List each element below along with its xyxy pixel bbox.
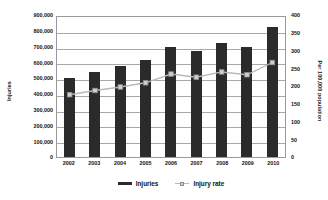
x-axis-tick-2002: 2002	[56, 160, 82, 172]
y-axis-left-tick-label: 600,000	[34, 61, 54, 66]
injury-rate-marker-2005	[143, 81, 148, 86]
y-axis-left-tick-label: 300,000	[34, 108, 54, 113]
line-series-injury-rate	[57, 17, 285, 157]
y-axis-left-title: Injuries	[6, 63, 12, 119]
x-axis-tick-2006: 2006	[158, 160, 184, 172]
x-axis-tick-2004: 2004	[107, 160, 133, 172]
x-axis-tick-2010: 2010	[261, 160, 287, 172]
y-axis-right-title: Per 100,000 population	[317, 60, 323, 122]
y-axis-left-tick-label: 400,000	[34, 92, 54, 97]
legend-label-injuries: Injuries	[136, 180, 159, 187]
y-axis-left-tick-label: 900,000	[34, 13, 54, 18]
injury-rate-line-svg	[57, 17, 285, 157]
plot-area	[56, 16, 286, 158]
injury-rate-marker-2004	[118, 85, 123, 90]
x-axis-tick-2008: 2008	[209, 160, 235, 172]
x-axis-tick-2009: 2009	[235, 160, 261, 172]
injury-rate-marker-2006	[169, 72, 174, 77]
x-axis-ticks: 200220032004200520062007200820092010	[56, 160, 286, 172]
y-axis-left-tick-label: 500,000	[34, 76, 54, 81]
injury-rate-marker-2002	[67, 92, 72, 97]
y-axis-right-tick-label: 0	[291, 155, 294, 160]
x-axis-tick-2007: 2007	[184, 160, 210, 172]
y-axis-right-tick-label: 400	[291, 13, 300, 18]
y-axis-left-tick-label: 800,000	[34, 29, 54, 34]
y-axis-left-ticks: 0100,000200,000300,000400,000500,000600,…	[13, 16, 55, 158]
y-axis-left-tick-label: 200,000	[34, 124, 54, 129]
injury-rate-marker-2010	[270, 60, 275, 65]
y-axis-right-tick-label: 200	[291, 84, 300, 89]
y-axis-left-tick-label: 0	[50, 155, 53, 160]
x-axis-tick-2003: 2003	[82, 160, 108, 172]
y-axis-right-tick-label: 150	[291, 102, 300, 107]
legend-bar-swatch-icon	[118, 182, 132, 186]
y-axis-right-tick-label: 350	[291, 31, 300, 36]
injury-rate-marker-2009	[245, 72, 250, 77]
legend-line-swatch-icon	[175, 181, 189, 186]
y-axis-left-tick-label: 700,000	[34, 45, 54, 50]
injury-rate-marker-2007	[194, 75, 199, 80]
y-axis-right-tick-label: 250	[291, 67, 300, 72]
x-axis-tick-2005: 2005	[133, 160, 159, 172]
legend-item-injury-rate: Injury rate	[175, 180, 224, 187]
y-axis-right-tick-label: 100	[291, 120, 300, 125]
injury-rate-marker-2008	[219, 70, 224, 75]
injury-rate-marker-2003	[93, 88, 98, 93]
chart-figure: Injuries Per 100,000 population 0100,000…	[0, 0, 328, 200]
legend-item-injuries: Injuries	[118, 180, 159, 187]
y-axis-right-tick-label: 50	[291, 138, 297, 143]
legend-label-injury-rate: Injury rate	[193, 180, 224, 187]
y-axis-right-tick-label: 300	[291, 49, 300, 54]
injury-rate-line	[70, 63, 273, 95]
y-axis-left-tick-label: 100,000	[34, 140, 54, 145]
y-axis-right-ticks: 050100150200250300350400	[288, 16, 314, 158]
chart-legend: Injuries Injury rate	[56, 180, 286, 187]
